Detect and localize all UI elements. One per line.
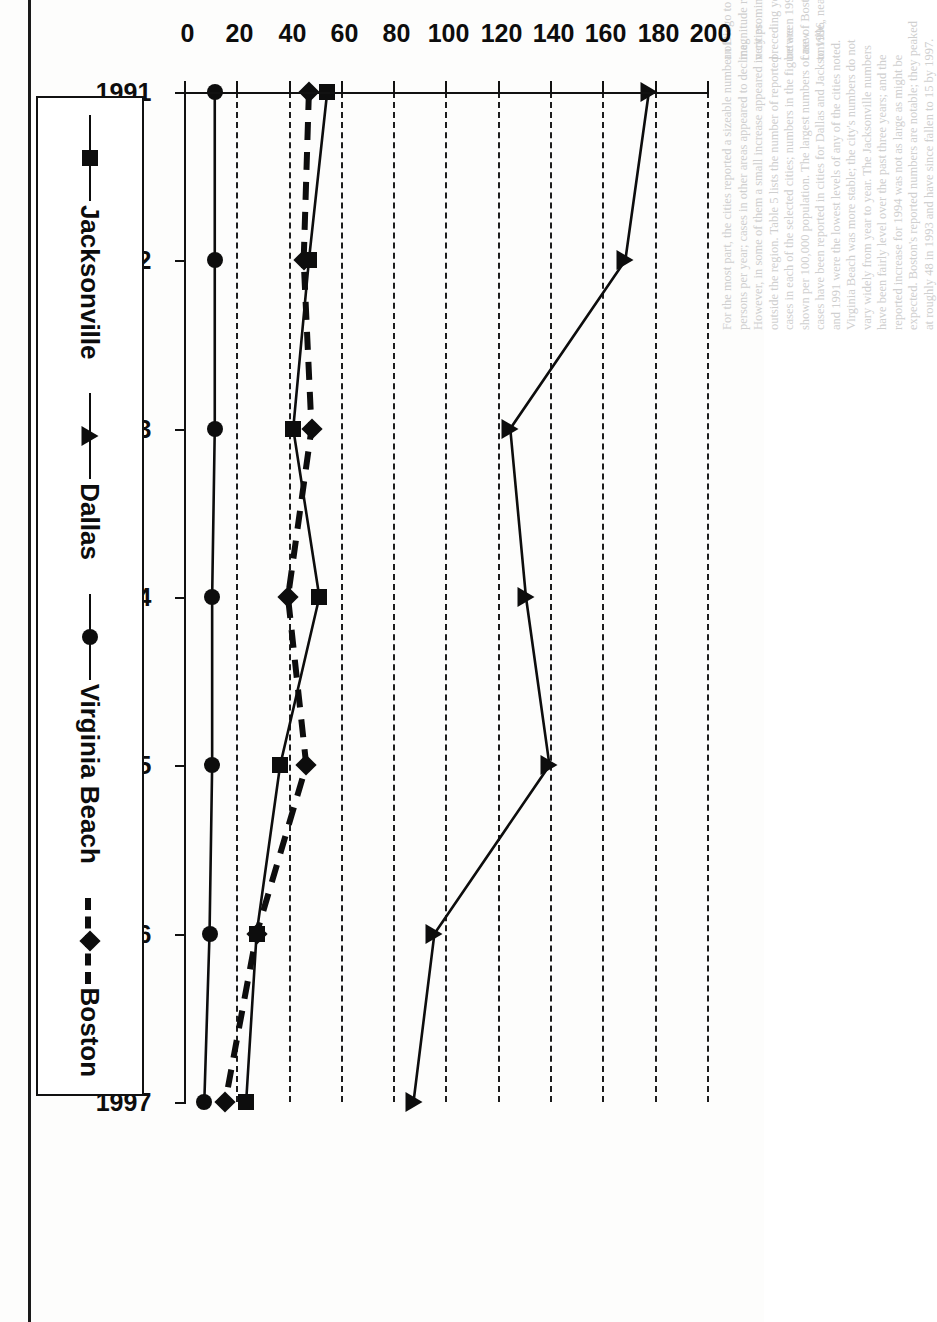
data-point-jacksonville-1996: [249, 926, 265, 942]
value-axis-spine: [186, 92, 709, 94]
data-point-jacksonville-1997: [238, 1094, 254, 1110]
value-tick-120: [498, 81, 500, 92]
data-point-dallas-1995: [541, 755, 558, 775]
category-tick-1996: [175, 934, 186, 936]
category-tick-1994: [175, 597, 186, 599]
data-point-jacksonville-1994: [311, 589, 327, 605]
chart-legend: JacksonvilleDallasVirginia BeachBoston: [36, 96, 144, 1096]
data-point-virginia-beach-1993: [207, 421, 223, 437]
legend-item-boston: Boston: [75, 898, 106, 1078]
series-lines: [186, 92, 709, 1102]
category-tick-1991: [175, 92, 186, 94]
square-marker-icon: [82, 150, 98, 166]
triangle-marker-icon: [82, 426, 99, 446]
legend-item-virginia-beach: Virginia Beach: [75, 594, 106, 864]
value-tick-80: [393, 81, 395, 92]
category-tick-1993: [175, 429, 186, 431]
data-point-virginia-beach-1997: [196, 1094, 212, 1110]
value-tick-200: [707, 81, 709, 92]
data-point-dallas-1993: [502, 419, 519, 439]
value-tick-100: [446, 81, 448, 92]
legend-item-dallas: Dallas: [75, 393, 106, 560]
data-point-virginia-beach-1992: [207, 252, 223, 268]
data-point-jacksonville-1993: [285, 421, 301, 437]
data-point-dallas-1996: [426, 924, 443, 944]
data-point-virginia-beach-1994: [204, 589, 220, 605]
legend-label: Dallas: [75, 483, 106, 560]
circle-marker-icon: [82, 629, 98, 645]
line-chart: 020406080100120140160180200 199119921993…: [186, 92, 709, 1102]
value-tick-40: [289, 81, 291, 92]
legend-label: Jacksonville: [75, 205, 106, 360]
data-point-jacksonville-1992: [301, 252, 317, 268]
legend-label: Boston: [75, 988, 106, 1078]
legend-sample-dallas: [77, 393, 103, 479]
data-point-virginia-beach-1996: [202, 926, 218, 942]
data-point-dallas-1994: [517, 587, 534, 607]
value-tick-160: [602, 81, 604, 92]
data-point-dallas-1997: [405, 1092, 422, 1112]
legend-item-jacksonville: Jacksonville: [75, 115, 106, 360]
data-point-virginia-beach-1995: [204, 757, 220, 773]
category-tick-1992: [175, 260, 186, 262]
value-tick-60: [341, 81, 343, 92]
value-tick-0: [184, 81, 186, 92]
value-axis-label-200: 200: [678, 19, 744, 48]
data-point-dallas-1992: [617, 250, 634, 270]
legend-sample-jacksonville: [77, 115, 103, 201]
legend-sample-boston: [77, 898, 103, 984]
value-tick-140: [550, 81, 552, 92]
data-point-jacksonville-1995: [272, 757, 288, 773]
diamond-marker-icon: [79, 930, 100, 951]
legend-label: Virginia Beach: [75, 684, 106, 864]
category-tick-1995: [175, 765, 186, 767]
plot-area: [186, 92, 709, 1102]
value-tick-20: [236, 81, 238, 92]
category-tick-1997: [175, 1102, 186, 1104]
legend-sample-virginia-beach: [77, 594, 103, 680]
